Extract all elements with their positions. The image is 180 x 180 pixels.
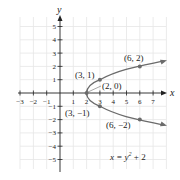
curve-arrow-bottom-icon <box>160 122 167 127</box>
y-tick-label: 3 <box>53 50 57 58</box>
parabola-graph: −3 −2 −1 1 2 3 4 5 6 7 5 4 3 2 1 −1 −2 −… <box>0 0 180 180</box>
y-tick-label: −3 <box>49 129 57 137</box>
y-axis-arrow-icon <box>58 15 63 21</box>
axes <box>18 15 167 172</box>
x-tick-label: 4 <box>111 98 115 106</box>
x-tick-label: −2 <box>30 98 38 106</box>
point-label-3-neg1: (3, −1) <box>65 108 90 118</box>
equation-label: x = y2 + 2 <box>109 151 146 162</box>
point-label-2-0: (2, 0) <box>102 81 122 91</box>
x-tick-label: 1 <box>72 98 76 106</box>
point-label-6-neg2: (6, −2) <box>106 120 131 130</box>
y-tick-label: −5 <box>49 156 57 164</box>
y-tick-label: 5 <box>53 23 57 31</box>
x-tick-label: 6 <box>138 98 142 106</box>
y-tick-label: 2 <box>53 63 57 71</box>
x-tick-labels: −3 −2 −1 1 2 3 4 5 6 7 <box>16 98 155 106</box>
x-axis-label: x <box>169 87 175 98</box>
point-label-3-1: (3, 1) <box>75 70 95 80</box>
point-label-6-2: (6, 2) <box>124 53 144 63</box>
y-tick-label: −2 <box>49 116 57 124</box>
leader-line <box>88 86 101 92</box>
y-tick-label: 4 <box>53 36 57 44</box>
x-tick-label: 5 <box>125 98 129 106</box>
y-tick-label: −1 <box>49 103 57 111</box>
y-axis-label: y <box>56 4 62 15</box>
chart-container: −3 −2 −1 1 2 3 4 5 6 7 5 4 3 2 1 −1 −2 −… <box>0 0 180 180</box>
y-tick-label: 1 <box>53 76 57 84</box>
x-tick-label: 7 <box>151 98 155 106</box>
curve-arrow-top-icon <box>160 60 167 65</box>
y-tick-labels: 5 4 3 2 1 −1 −2 −3 −4 −5 <box>49 23 57 164</box>
x-tick-label: −3 <box>16 98 24 106</box>
y-tick-label: −4 <box>49 143 57 151</box>
